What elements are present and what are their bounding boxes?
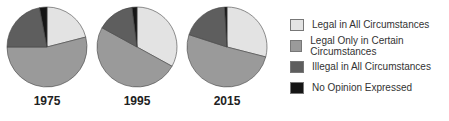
pie-1975: 1975 xyxy=(6,6,88,108)
legend-item-no-opinion: No Opinion Expressed xyxy=(290,77,449,98)
pie-chart-1975 xyxy=(6,6,88,88)
pie-1995: 1995 xyxy=(96,6,178,108)
legend-label: Legal Only in Certain Circumstances xyxy=(310,35,449,57)
legend-item-legal-certain: Legal Only in Certain Circumstances xyxy=(290,35,449,56)
legend-item-illegal-all: Illegal in All Circumstances xyxy=(290,56,449,77)
legend: Legal in All Circumstances Legal Only in… xyxy=(290,14,449,98)
pie-chart-1995 xyxy=(96,6,178,88)
legend-swatch xyxy=(290,19,304,31)
pie-2015: 2015 xyxy=(186,6,268,108)
legend-label: Illegal in All Circumstances xyxy=(312,61,431,72)
legend-swatch xyxy=(290,61,304,73)
legend-label: No Opinion Expressed xyxy=(312,82,412,93)
pie-year-label: 2015 xyxy=(186,94,268,108)
pie-year-label: 1975 xyxy=(6,94,88,108)
pie-chart-2015 xyxy=(186,6,268,88)
legend-item-legal-all: Legal in All Circumstances xyxy=(290,14,449,35)
legend-label: Legal in All Circumstances xyxy=(312,19,429,30)
legend-swatch xyxy=(290,82,304,94)
pie-year-label: 1995 xyxy=(96,94,178,108)
legend-swatch xyxy=(290,40,302,52)
